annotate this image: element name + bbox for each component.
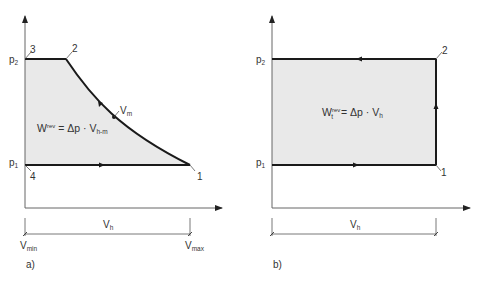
p2-label-b: p2	[256, 54, 266, 66]
panel-b-label: b)	[273, 259, 282, 270]
work-area-a	[25, 59, 190, 165]
point-1-label-b: 1	[441, 167, 447, 178]
vh-label-a: Vh	[103, 219, 114, 231]
pv-diagrams: 3 2 4 1 p2 p1 Vm Wrev = Δp · Vh-m Vh Vmi…	[0, 0, 479, 285]
point-2-label-b: 2	[442, 45, 448, 56]
vmax-label: Vmax	[185, 240, 205, 252]
point-2-label: 2	[72, 43, 78, 54]
panel-a: 3 2 4 1 p2 p1 Vm Wrev = Δp · Vh-m Vh Vmi…	[9, 16, 222, 270]
vh-label-b: Vh	[350, 219, 361, 231]
p2-label-a: p2	[9, 54, 19, 66]
point-1-label: 1	[197, 171, 203, 182]
vm-label: Vm	[120, 105, 132, 117]
panel-b: 2 1 p2 p1 Wrevt = Δp · Vh Vh b)	[256, 16, 470, 270]
p1-label-b: p1	[256, 157, 266, 169]
work-formula-b: Wrevt = Δp · Vh	[322, 106, 383, 120]
p1-label-a: p1	[9, 157, 19, 169]
point-4-label: 4	[30, 171, 36, 182]
vmin-label: Vmin	[20, 240, 38, 252]
panel-a-label: a)	[26, 259, 35, 270]
point-3-label: 3	[30, 44, 36, 55]
